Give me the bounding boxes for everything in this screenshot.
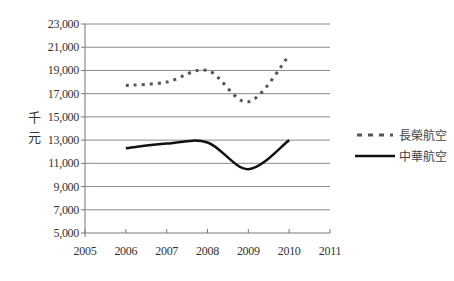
x-tick-label: 2011 <box>319 244 342 258</box>
legend: 長榮航空 中華航空 <box>355 124 447 166</box>
data-series <box>126 55 289 169</box>
x-tick-label: 2008 <box>196 244 219 258</box>
x-tick-label: 2007 <box>155 244 178 258</box>
axes <box>85 24 330 237</box>
legend-label: 中華航空 <box>399 147 447 164</box>
x-tick-label: 2010 <box>278 244 301 258</box>
y-axis-label: 千 元 <box>26 108 42 148</box>
y-tick-label: 17,000 <box>48 87 80 101</box>
y-axis-label-char-1: 千 <box>26 108 42 128</box>
legend-label: 長榮航空 <box>399 126 447 143</box>
x-tick-label: 2005 <box>74 244 97 258</box>
y-tick-label: 23,000 <box>48 17 80 31</box>
solid-line-icon <box>355 152 395 160</box>
y-axis-ticks: 5,0007,0009,00011,00013,00015,00017,0001… <box>48 17 85 240</box>
x-tick-label: 2006 <box>114 244 137 258</box>
legend-item-eva: 長榮航空 <box>355 124 447 145</box>
y-tick-label: 21,000 <box>48 40 80 54</box>
y-tick-label: 11,000 <box>48 156 79 170</box>
y-tick-label: 19,000 <box>48 63 80 77</box>
x-tick-label: 2009 <box>237 244 260 258</box>
legend-item-china-airlines: 中華航空 <box>355 145 447 166</box>
y-tick-label: 9,000 <box>53 180 79 194</box>
y-tick-label: 13,000 <box>48 133 80 147</box>
gridlines <box>85 24 330 210</box>
series-eva-air-line <box>126 55 289 102</box>
y-tick-label: 5,000 <box>53 226 79 240</box>
y-tick-label: 15,000 <box>48 110 80 124</box>
series-china-airlines-line <box>126 140 289 169</box>
y-axis-label-char-2: 元 <box>26 128 42 148</box>
y-tick-label: 7,000 <box>53 203 79 217</box>
dashed-line-icon <box>355 131 395 139</box>
